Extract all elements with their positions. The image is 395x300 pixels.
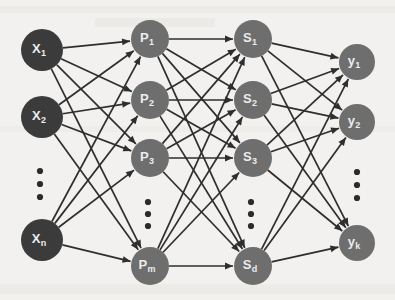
node-subscript-S1: 1 (252, 37, 257, 47)
neural-network-diagram: X1X2XnP1P2P3PmS1S2S3Sdy1y2yk (0, 0, 395, 300)
node-subscript-Sd: d (252, 264, 258, 274)
ellipsis-dot-3 (354, 195, 360, 201)
node-S1[interactable]: S1 (234, 20, 272, 58)
node-yk[interactable]: yk (339, 225, 375, 261)
network-canvas: X1X2XnP1P2P3PmS1S2S3Sdy1y2yk (0, 0, 395, 300)
ellipsis-dot-1 (145, 199, 151, 205)
node-subscript-S2: 2 (252, 98, 257, 108)
node-subscript-P2: 2 (149, 98, 154, 108)
ellipsis-dot-2 (354, 182, 360, 188)
ellipsis-dot-1 (37, 168, 43, 174)
ellipsis-dot-1 (354, 169, 360, 175)
node-Pm[interactable]: Pm (131, 247, 169, 285)
ellipsis-output-layer (354, 169, 360, 201)
node-subscript-Xn: n (41, 238, 47, 248)
ellipsis-dot-2 (145, 211, 151, 217)
ellipsis-dot-3 (37, 194, 43, 200)
node-subscript-X1: 1 (41, 48, 46, 58)
ellipsis-dot-1 (248, 199, 254, 205)
node-y1[interactable]: y1 (339, 44, 375, 80)
node-subscript-X2: 2 (41, 115, 46, 125)
node-subscript-P1: 1 (149, 37, 154, 47)
ellipsis-input-layer (37, 168, 43, 200)
node-subscript-Pm: m (148, 264, 156, 274)
ellipsis-p-layer (145, 199, 151, 229)
node-S3[interactable]: S3 (234, 139, 272, 177)
ellipsis-dot-3 (145, 223, 151, 229)
ellipsis-dot-2 (248, 211, 254, 217)
node-subscript-P3: 3 (149, 156, 154, 166)
node-P2[interactable]: P2 (131, 81, 169, 119)
node-P1[interactable]: P1 (131, 20, 169, 58)
node-X1[interactable]: X1 (21, 29, 63, 71)
ellipsis-s-layer (248, 199, 254, 229)
node-y2[interactable]: y2 (339, 104, 375, 140)
node-Sd[interactable]: Sd (234, 247, 272, 285)
ellipsis-dot-2 (37, 181, 43, 187)
node-Xn[interactable]: Xn (21, 219, 63, 261)
node-subscript-S3: 3 (252, 156, 257, 166)
node-subscript-y2: 2 (355, 120, 360, 130)
node-subscript-y1: 1 (355, 60, 360, 70)
ellipsis-dot-3 (248, 223, 254, 229)
node-P3[interactable]: P3 (131, 139, 169, 177)
node-X2[interactable]: X2 (21, 96, 63, 138)
node-S2[interactable]: S2 (234, 81, 272, 119)
